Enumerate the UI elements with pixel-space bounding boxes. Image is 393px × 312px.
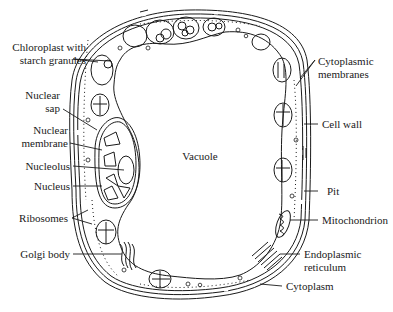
label-endoplasmic-reticulum-line2: reticulum <box>304 261 361 274</box>
label-mitochondrion: Mitochondrion <box>322 214 388 227</box>
nucleus <box>95 118 140 208</box>
plant-cell-diagram: Chloroplast with starch granules Nuclear… <box>0 0 393 312</box>
label-cytoplasmic-membranes-line1: Cytoplasmic <box>318 55 374 68</box>
label-nuclear-membrane-line1: Nuclear <box>8 124 68 137</box>
label-nuclear-sap: Nuclear sap <box>10 89 60 114</box>
golgi-body <box>120 242 136 270</box>
label-chloroplast-line2: starch granules <box>2 54 86 67</box>
label-pit: Pit <box>327 185 339 198</box>
label-nuclear-membrane: Nuclear membrane <box>8 124 68 149</box>
label-cytoplasm: Cytoplasm <box>286 280 334 293</box>
label-nuclear-sap-line2: sap <box>10 102 60 115</box>
label-cell-wall: Cell wall <box>322 118 362 131</box>
label-chloroplast: Chloroplast with starch granules <box>2 41 86 66</box>
label-ribosomes: Ribosomes <box>4 212 68 225</box>
label-nuclear-sap-line1: Nuclear <box>10 89 60 102</box>
mitochondrion <box>273 209 294 239</box>
label-endoplasmic-reticulum: Endoplasmic reticulum <box>304 248 361 273</box>
label-cytoplasmic-membranes: Cytoplasmic membranes <box>318 55 374 80</box>
label-nucleolus: Nucleolus <box>8 160 70 173</box>
label-cytoplasmic-membranes-line2: membranes <box>318 68 374 81</box>
label-endoplasmic-reticulum-line1: Endoplasmic <box>304 248 361 261</box>
label-nucleus: Nucleus <box>8 180 70 193</box>
label-vacuole: Vacuole <box>175 150 225 163</box>
label-golgi-body: Golgi body <box>4 248 70 261</box>
label-chloroplast-line1: Chloroplast with <box>2 41 86 54</box>
label-nuclear-membrane-line2: membrane <box>8 137 68 150</box>
leader-lines <box>63 59 318 286</box>
